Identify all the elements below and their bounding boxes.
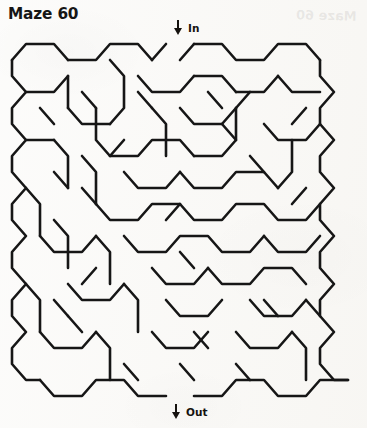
maze-wall [292, 188, 306, 204]
maze-wall [264, 236, 320, 252]
maze-wall [180, 364, 194, 380]
maze-wall [124, 172, 180, 188]
maze-wall [96, 204, 320, 220]
maze-wall [124, 284, 138, 332]
maze-wall [194, 76, 236, 92]
maze-wall [40, 108, 54, 124]
maze-wall [40, 380, 166, 396]
maze-wall [208, 268, 306, 284]
maze-wall [12, 60, 40, 380]
maze-wall [166, 204, 180, 220]
maze-wall [68, 44, 152, 60]
maze-wall [68, 108, 110, 124]
maze-wall [166, 300, 222, 316]
maze-wall [82, 188, 96, 204]
maze-wall [264, 124, 320, 140]
maze-wall [236, 92, 250, 108]
maze-wall [54, 172, 68, 188]
maze-wall [180, 108, 236, 124]
maze-wall [194, 380, 348, 396]
maze-wall [250, 156, 264, 172]
maze-wall [278, 140, 292, 188]
maze-wall [152, 44, 166, 60]
maze-wall [236, 332, 292, 348]
maze-wall [40, 332, 96, 348]
maze-wall [68, 316, 82, 332]
maze-wall [152, 108, 166, 156]
maze-wall [26, 284, 40, 332]
maze-wall [82, 92, 96, 108]
maze-wall [208, 92, 222, 108]
maze-wall [222, 124, 236, 140]
maze-wall [250, 300, 306, 316]
maze-wall [124, 236, 264, 252]
maze-wall [278, 76, 320, 92]
maze-wall [180, 172, 278, 188]
maze-wall [264, 300, 278, 316]
maze-wall-group [12, 44, 348, 396]
maze-wall [320, 60, 348, 380]
maze-wall [26, 76, 68, 92]
maze-wall [138, 92, 152, 108]
maze-wall [180, 44, 194, 60]
maze-wall [54, 300, 68, 316]
maze-wall [68, 284, 124, 300]
maze-grid [0, 0, 367, 428]
maze-wall [54, 220, 68, 268]
maze-wall [292, 332, 306, 380]
maze-wall [180, 252, 194, 268]
maze-wall [138, 76, 194, 92]
maze-page: Maze 60 Maze 60 In Out [0, 0, 367, 428]
maze-wall [26, 188, 40, 236]
maze-wall [96, 332, 110, 380]
maze-wall [152, 268, 208, 284]
maze-wall [110, 60, 124, 124]
maze-wall [194, 44, 320, 60]
maze-wall [124, 364, 138, 380]
maze-wall [236, 76, 278, 92]
maze-wall [96, 108, 194, 156]
maze-wall [96, 236, 110, 284]
maze-wall [236, 364, 250, 380]
maze-wall [306, 300, 320, 316]
maze-wall [12, 44, 68, 60]
maze-wall [292, 108, 306, 124]
maze-wall [110, 140, 124, 156]
maze-wall [82, 268, 96, 284]
